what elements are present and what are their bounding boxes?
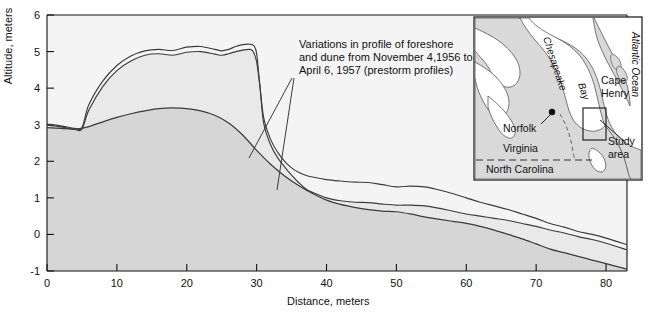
x-tick-label: 30 <box>251 277 263 289</box>
map-label-cape: Cape <box>601 74 626 86</box>
y-tick-label: -1 <box>30 265 40 277</box>
y-tick-label: 4 <box>34 82 40 94</box>
y-tick-label: 3 <box>34 119 40 131</box>
x-axis-title: Distance, meters <box>287 295 370 307</box>
map-label-study: Study <box>608 135 636 147</box>
y-tick-label: 1 <box>34 192 40 204</box>
x-tick-label: 80 <box>600 277 612 289</box>
map-label-area: area <box>608 148 629 160</box>
map-label-north-carolina: North Carolina <box>486 163 554 175</box>
map-label-virginia: Virginia <box>503 142 538 154</box>
annotation-text-block: Variations in profile of foreshore and d… <box>299 38 473 76</box>
x-tick-label: 0 <box>44 277 50 289</box>
y-tick-label: 0 <box>34 228 40 240</box>
x-tick-label: 40 <box>320 277 332 289</box>
chart-canvas: -10123456 01020304050607080 Variations i… <box>0 0 654 320</box>
y-tick-label: 5 <box>34 46 40 58</box>
map-label-atlantic-ocean: Atlantic Ocean <box>630 31 641 97</box>
y-tick-label: 6 <box>34 9 40 21</box>
map-norfolk-dot <box>549 109 555 115</box>
map-label-norfolk: Norfolk <box>503 122 537 134</box>
beach-profile-figure: -10123456 01020304050607080 Variations i… <box>0 0 654 320</box>
x-tick-label: 10 <box>111 277 123 289</box>
svg-text:Variations in profile of fores: Variations in profile of foreshore <box>299 38 454 50</box>
x-tick-label: 20 <box>181 277 193 289</box>
x-tick-label: 70 <box>530 277 542 289</box>
svg-text:April 6, 1957 (prestorm profil: April 6, 1957 (prestorm profiles) <box>299 64 453 76</box>
x-tick-label: 50 <box>390 277 402 289</box>
svg-text:and dune from November 4,1956: and dune from November 4,1956 to <box>299 51 473 63</box>
map-label-henry: Henry <box>601 87 630 99</box>
x-tick-label: 60 <box>460 277 472 289</box>
y-axis-title: Altitude, meters <box>2 0 14 106</box>
y-tick-label: 2 <box>34 155 40 167</box>
inset-map: Chesapeake Bay Atlantic Ocean Cape Henry… <box>474 17 642 180</box>
